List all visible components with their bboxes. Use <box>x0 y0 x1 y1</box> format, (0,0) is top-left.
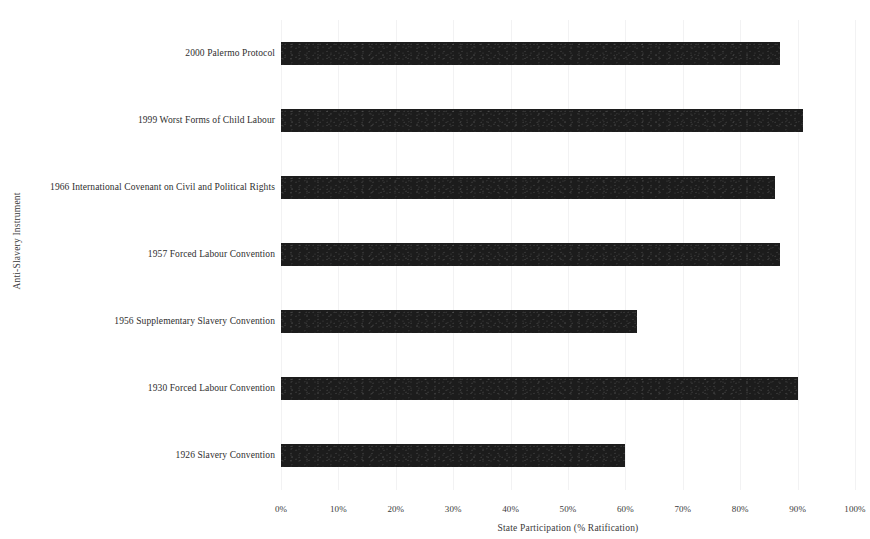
x-tick-label: 20% <box>376 504 416 514</box>
x-tick-label: 30% <box>433 504 473 514</box>
x-tick-label: 60% <box>605 504 645 514</box>
x-tick-label: 0% <box>261 504 301 514</box>
bar-row: 1957 Forced Labour Convention <box>281 221 855 288</box>
bar-row: 1956 Supplementary Slavery Convention <box>281 288 855 355</box>
y-tick-label: 1930 Forced Labour Convention <box>148 377 275 400</box>
bar-row: 1926 Slavery Convention <box>281 422 855 489</box>
bar <box>281 176 775 199</box>
y-tick-label: 1957 Forced Labour Convention <box>148 243 275 266</box>
x-tick-label: 50% <box>548 504 588 514</box>
bar-row: 2000 Palermo Protocol <box>281 20 855 87</box>
x-tick-label: 70% <box>663 504 703 514</box>
gridline <box>855 20 856 490</box>
y-tick-label: 1956 Supplementary Slavery Convention <box>114 310 275 333</box>
x-tick-label: 100% <box>835 504 870 514</box>
bar-row: 1966 International Covenant on Civil and… <box>281 154 855 221</box>
x-tick-label: 80% <box>720 504 760 514</box>
bar <box>281 310 637 333</box>
x-tick-label: 40% <box>491 504 531 514</box>
y-axis-title: Anti-Slavery Instrument <box>12 171 22 311</box>
bar <box>281 243 780 266</box>
bar <box>281 444 625 467</box>
x-tick-label: 90% <box>778 504 818 514</box>
x-tick-label: 10% <box>318 504 358 514</box>
y-tick-label: 1926 Slavery Convention <box>176 444 275 467</box>
y-tick-label: 1966 International Covenant on Civil and… <box>50 176 275 199</box>
bar <box>281 109 803 132</box>
x-axis-title: State Participation (% Ratification) <box>221 523 870 533</box>
bar <box>281 377 798 400</box>
y-tick-label: 1999 Worst Forms of Child Labour <box>138 109 275 132</box>
y-tick-label: 2000 Palermo Protocol <box>185 42 275 65</box>
plot-area: 2000 Palermo Protocol1999 Worst Forms of… <box>281 20 855 490</box>
bar-row: 1930 Forced Labour Convention <box>281 355 855 422</box>
x-axis: 0%10%20%30%40%50%60%70%80%90%100% State … <box>281 492 855 538</box>
bar-row: 1999 Worst Forms of Child Labour <box>281 87 855 154</box>
bar <box>281 42 780 65</box>
